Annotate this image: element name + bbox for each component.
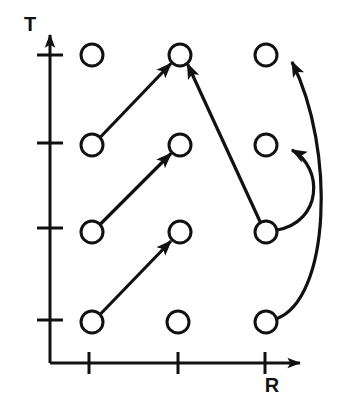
state-node[interactable] [81, 221, 103, 243]
state-node[interactable] [255, 134, 277, 156]
edge-c1r4-to-c2r3 [101, 241, 172, 314]
edge-c3r3-to-c2r1 [188, 64, 261, 222]
state-node[interactable] [255, 311, 277, 333]
state-node[interactable] [169, 134, 191, 156]
state-node[interactable] [81, 311, 103, 333]
nodes-group [81, 44, 277, 333]
state-node[interactable] [81, 44, 103, 66]
edge-c3r3-to-c3r2 [277, 150, 314, 230]
state-node[interactable] [167, 311, 189, 333]
x-axis-label: R [265, 374, 280, 396]
edge-c1r3-to-c2r2 [101, 154, 172, 225]
rt-state-diagram: T R [0, 0, 349, 410]
y-axis-label: T [24, 13, 36, 35]
edge-c1r2-to-c2r1 [101, 64, 172, 138]
diagram-canvas: T R [0, 0, 349, 410]
edges-group [101, 62, 322, 319]
state-node[interactable] [169, 221, 191, 243]
state-node[interactable] [169, 44, 191, 66]
state-node[interactable] [255, 221, 277, 243]
state-node[interactable] [255, 44, 277, 66]
state-node[interactable] [81, 134, 103, 156]
